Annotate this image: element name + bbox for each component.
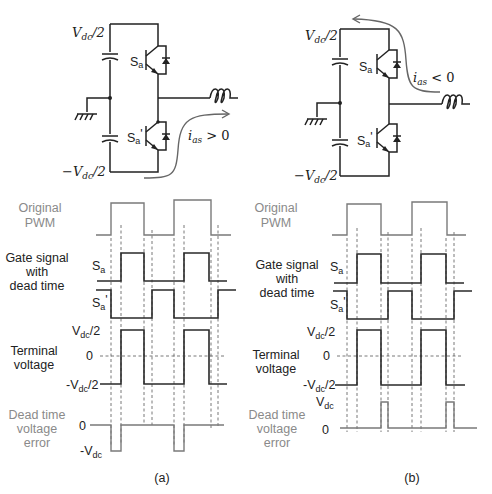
terminal-zero-label: 0 [86,349,93,363]
capacitor-upper-icon [330,57,350,65]
caption-a: (a) [154,471,169,485]
igbt-upper-icon [377,50,401,78]
terminal-low-label: -Vdc/2 [66,378,98,394]
dead-time-diagram: Vdc/2 −Vdc/2 Sa Sa' ias > 0 [0,0,492,494]
dead-time-error-label: Dead timevoltageerror [9,408,66,450]
rail-bottom-label: −Vdc/2 [294,168,338,185]
ground-icon [75,114,97,120]
sa-label: Sa [330,260,343,276]
capacitor-lower-icon [330,138,350,146]
terminal-voltage-trace [335,330,465,385]
original-pwm-trace [332,202,466,235]
igbt-upper-icon [146,46,170,74]
error-level-label: -Vdc [80,444,103,460]
ground-icon [305,119,327,125]
rail-bottom-label: −Vdc/2 [62,164,106,181]
circuit-b: Vdc/2 −Vdc/2 Sa Sa' ias < 0 [294,15,470,185]
switch-upper-label: Sa [130,55,143,70]
gate-signal-label: Gate signalwithdead time [5,251,68,293]
terminal-voltage-label: Terminalvoltage [10,344,57,372]
gate-sap-trace [96,290,236,318]
gate-sa-trace [334,254,464,283]
gate-sa-trace [97,253,227,281]
sap-label: Sa' [92,293,108,312]
caption-b: (b) [404,471,419,485]
waveforms-b: OriginalPWM Gate signalwithdead time Sa … [249,201,477,485]
terminal-high-label: Vdc/2 [307,325,335,341]
gate-sap-trace [333,291,472,319]
rail-top-label: Vdc/2 [72,25,105,42]
switch-lower-label: Sa' [127,127,143,146]
dead-time-error-trace [340,402,477,428]
inductor-icon [210,89,238,103]
capacitor-lower-icon [100,134,120,142]
sap-label: Sa' [330,295,346,314]
inductor-icon [442,95,470,109]
terminal-voltage-trace [100,330,227,384]
circuit-a: Vdc/2 −Vdc/2 Sa Sa' ias > 0 [62,24,238,181]
sa-label: Sa [92,259,105,275]
current-label-a: ias > 0 [188,128,230,145]
igbt-lower-icon [377,124,401,152]
switch-lower-label: Sa' [357,130,373,149]
original-pwm-trace [96,200,231,235]
current-label-b: ias < 0 [413,70,455,87]
dead-time-error-label: Dead timevoltageerror [249,408,306,450]
switch-upper-label: Sa [359,60,372,75]
gate-signal-label: Gate signalwithdead time [255,258,318,300]
error-zero-label: 0 [79,419,86,433]
terminal-low-label: -Vdc/2 [303,378,335,394]
error-zero-label: 0 [322,423,329,437]
terminal-zero-label: 0 [323,349,330,363]
terminal-high-label: Vdc/2 [72,324,100,340]
rail-top-label: Vdc/2 [305,28,338,45]
original-pwm-label: OriginalPWM [254,201,297,230]
error-level-label: Vdc [316,395,334,411]
capacitor-upper-icon [100,52,120,60]
igbt-lower-icon [146,122,170,150]
waveforms-a: OriginalPWM Gate signalwithdead time Sa … [5,200,236,485]
original-pwm-label: OriginalPWM [18,201,61,230]
terminal-voltage-label: Terminalvoltage [252,348,299,376]
dead-time-error-trace [90,425,224,451]
